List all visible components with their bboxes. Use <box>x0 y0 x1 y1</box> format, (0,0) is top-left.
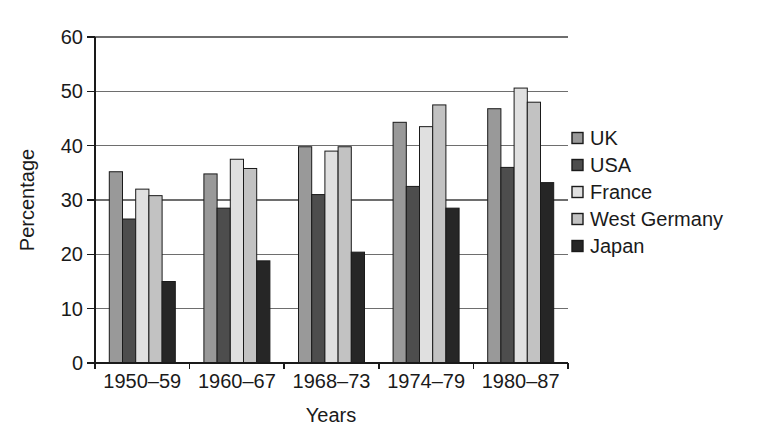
bar-uk-1 <box>204 174 217 363</box>
bar-west-germany-4 <box>527 102 540 363</box>
bar-france-1 <box>230 159 243 363</box>
bar-usa-0 <box>123 219 136 363</box>
legend-label-west-germany: West Germany <box>590 208 723 230</box>
y-tick-label: 30 <box>61 189 83 211</box>
legend-swatch-france <box>572 187 583 198</box>
bar-west-germany-1 <box>244 168 257 363</box>
legend-swatch-usa <box>572 160 583 171</box>
legend-label-uk: UK <box>590 127 618 149</box>
x-category-label: 1950–59 <box>103 370 181 392</box>
y-tick-label: 20 <box>61 243 83 265</box>
bar-uk-4 <box>488 109 501 363</box>
bar-france-3 <box>420 127 433 363</box>
y-tick-label: 40 <box>61 135 83 157</box>
bar-chart-figure: Percentage Years 01020304050601950–59196… <box>0 0 761 447</box>
bar-west-germany-2 <box>338 147 351 363</box>
legend-label-japan: Japan <box>590 235 645 257</box>
bar-west-germany-0 <box>149 196 162 363</box>
bar-uk-0 <box>109 172 122 363</box>
bar-france-4 <box>514 88 527 363</box>
bar-japan-3 <box>446 208 459 363</box>
bar-japan-0 <box>162 282 175 364</box>
x-category-label: 1980–87 <box>482 370 560 392</box>
y-tick-label: 10 <box>61 298 83 320</box>
y-tick-label: 60 <box>61 26 83 48</box>
y-tick-label: 50 <box>61 80 83 102</box>
legend-swatch-uk <box>572 133 583 144</box>
bar-japan-1 <box>257 261 270 363</box>
chart-canvas: Percentage Years 01020304050601950–59196… <box>0 0 761 447</box>
bar-france-2 <box>325 151 338 363</box>
x-category-label: 1960–67 <box>198 370 276 392</box>
chart-generated-layer: 01020304050601950–591960–671968–731974–7… <box>61 26 723 392</box>
y-axis-title: Percentage <box>16 149 38 251</box>
bar-uk-2 <box>299 147 312 363</box>
legend-swatch-west-germany <box>572 214 583 225</box>
bar-west-germany-3 <box>433 105 446 363</box>
legend-label-usa: USA <box>590 154 632 176</box>
bar-japan-4 <box>541 183 554 363</box>
bar-usa-1 <box>217 208 230 363</box>
y-tick-label: 0 <box>72 352 83 374</box>
bar-usa-3 <box>406 186 419 363</box>
legend-label-france: France <box>590 181 652 203</box>
bar-usa-4 <box>501 167 514 363</box>
bar-uk-3 <box>393 122 406 363</box>
x-axis-title: Years <box>306 404 356 426</box>
x-category-label: 1974–79 <box>387 370 465 392</box>
bar-usa-2 <box>312 195 325 363</box>
legend-swatch-japan <box>572 241 583 252</box>
x-category-label: 1968–73 <box>293 370 371 392</box>
bar-france-0 <box>136 189 149 363</box>
bar-japan-2 <box>351 252 364 363</box>
